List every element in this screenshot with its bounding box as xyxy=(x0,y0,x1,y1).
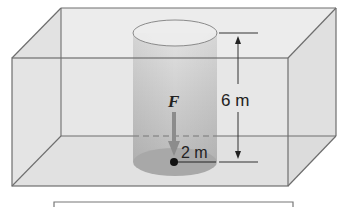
cylinder-top-rim xyxy=(133,20,217,46)
height-label: 6 m xyxy=(221,91,249,110)
tank-diagram: 6 m F 2 m xyxy=(0,0,349,207)
force-arrow-shaft xyxy=(172,112,176,142)
center-point xyxy=(170,158,178,166)
radius-label: 2 m xyxy=(181,144,208,161)
force-label: F xyxy=(167,92,180,111)
caption-frame xyxy=(54,202,293,207)
